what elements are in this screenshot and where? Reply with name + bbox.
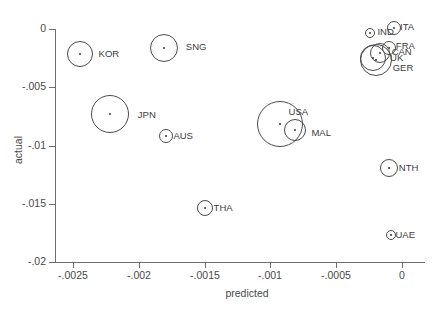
y-tick-label: 0: [0, 23, 46, 33]
x-tick-mark: [73, 262, 74, 268]
y-axis-title: actual: [12, 135, 24, 163]
x-tick-label: -.002: [109, 270, 169, 280]
data-point-label: IND: [377, 27, 393, 36]
data-point-label: UK: [390, 53, 403, 62]
x-tick-mark: [402, 262, 403, 268]
y-tick-mark: [49, 87, 55, 88]
y-tick-label: -.005: [0, 81, 46, 91]
x-axis-line: [55, 262, 425, 263]
data-point-label: GER: [393, 63, 414, 72]
y-tick-mark: [49, 204, 55, 205]
data-point-label: USA: [289, 107, 309, 116]
data-point-center-dot: [204, 207, 206, 209]
data-point-center-dot: [279, 123, 281, 125]
y-axis-line: [55, 29, 56, 263]
data-point-label: AUS: [173, 131, 193, 140]
data-point-label: KOR: [99, 49, 120, 58]
y-tick-mark: [49, 29, 55, 30]
x-tick-label: 0: [372, 270, 432, 280]
data-point-label: SNG: [186, 42, 207, 51]
scatter-plot: 0-.005-.01-.015-.02 -.0025-.002-.0015-.0…: [0, 0, 434, 309]
x-tick-label: -.001: [240, 270, 300, 280]
x-axis-title: predicted: [30, 287, 434, 299]
data-point-label: UAE: [395, 230, 415, 239]
y-tick-label: -.015: [0, 198, 46, 208]
x-tick-label: -.0015: [175, 270, 235, 280]
x-tick-mark: [270, 262, 271, 268]
data-point-label: THA: [214, 203, 233, 212]
data-point-label: MAL: [311, 128, 331, 137]
y-tick-mark: [49, 262, 55, 263]
data-point-center-dot: [109, 113, 111, 115]
data-point-label: ITA: [400, 22, 414, 31]
data-point-center-dot: [388, 167, 390, 169]
x-tick-label: -.0005: [306, 270, 366, 280]
data-point-center-dot: [79, 53, 81, 55]
x-tick-mark: [139, 262, 140, 268]
y-tick-mark: [49, 146, 55, 147]
y-tick-label: -.02: [0, 256, 46, 266]
data-point-label: JPN: [138, 110, 156, 119]
x-tick-label: -.0025: [43, 270, 103, 280]
x-tick-mark: [336, 262, 337, 268]
data-point-label: NTH: [399, 163, 419, 172]
x-tick-mark: [205, 262, 206, 268]
data-point-center-dot: [163, 47, 165, 49]
